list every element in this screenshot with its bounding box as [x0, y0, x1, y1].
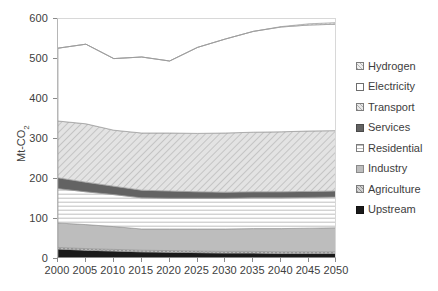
legend-swatch-icon	[356, 124, 364, 132]
y-axis-tick-label: 500	[14, 53, 48, 64]
legend-item-label: Transport	[368, 102, 415, 113]
y-axis-tick-label: 400	[14, 93, 48, 104]
legend-item-agriculture[interactable]: Agriculture	[356, 179, 438, 200]
y-axis-tick-label: 600	[14, 13, 48, 24]
legend-item-label: Industry	[368, 163, 407, 174]
area-band-electricity	[58, 24, 336, 133]
y-axis-tick-label: 200	[14, 173, 48, 184]
legend-item-residential[interactable]: Residential	[356, 138, 438, 159]
x-axis-tickmark	[169, 258, 170, 262]
stacked-area-chart: Mt-CO2 0100200300400500600 2000200520102…	[0, 0, 438, 291]
x-axis-tickmark	[85, 258, 86, 262]
legend-swatch-icon	[356, 206, 364, 214]
x-axis-tickmark	[224, 258, 225, 262]
legend-item-label: Electricity	[368, 81, 415, 92]
legend-item-services[interactable]: Services	[356, 118, 438, 139]
legend-swatch-icon	[356, 103, 364, 111]
legend-item-label: Residential	[368, 143, 422, 154]
legend-item-upstream[interactable]: Upstream	[356, 200, 438, 221]
y-axis-tick-label: 300	[14, 133, 48, 144]
legend-swatch-icon	[356, 144, 364, 152]
legend-item-label: Services	[368, 122, 410, 133]
x-axis-tick-label: 2050	[317, 265, 355, 276]
legend: HydrogenElectricityTransportServicesResi…	[356, 56, 438, 220]
y-axis-tick-label: 100	[14, 213, 48, 224]
legend-item-hydrogen[interactable]: Hydrogen	[356, 56, 438, 77]
legend-swatch-icon	[356, 62, 364, 70]
x-axis-tickmark	[252, 258, 253, 262]
legend-item-industry[interactable]: Industry	[356, 159, 438, 180]
area-series-svg	[58, 19, 336, 258]
legend-item-label: Agriculture	[368, 184, 421, 195]
x-axis-tickmark	[197, 258, 198, 262]
x-axis-tickmark	[280, 258, 281, 262]
legend-swatch-icon	[356, 83, 364, 91]
x-axis-tickmark	[335, 258, 336, 262]
plot-area	[57, 18, 336, 258]
legend-item-transport[interactable]: Transport	[356, 97, 438, 118]
x-axis-tickmark	[141, 258, 142, 262]
x-axis-tickmark	[308, 258, 309, 262]
y-axis-tick-label: 0	[14, 253, 48, 264]
legend-item-electricity[interactable]: Electricity	[356, 77, 438, 98]
legend-swatch-icon	[356, 185, 364, 193]
legend-swatch-icon	[356, 165, 364, 173]
legend-item-label: Upstream	[368, 204, 416, 215]
y-axis-title-subscript: 2	[22, 125, 31, 129]
x-axis-tickmark	[113, 258, 114, 262]
legend-item-label: Hydrogen	[368, 61, 416, 72]
x-axis-tickmark	[57, 258, 58, 262]
